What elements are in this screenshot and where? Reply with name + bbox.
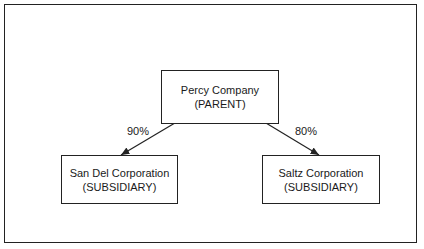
subsidiary-role: (SUBSIDIARY) [83,180,157,194]
ownership-arrows [0,0,424,249]
subsidiary-node-san-del: San Del Corporation (SUBSIDIARY) [61,155,178,204]
ownership-label-san-del: 90% [127,125,149,137]
subsidiary-name: San Del Corporation [70,166,170,180]
ownership-label-saltz: 80% [295,125,317,137]
parent-role: (PARENT) [194,97,245,111]
subsidiary-role: (SUBSIDIARY) [284,180,358,194]
subsidiary-node-saltz: Saltz Corporation (SUBSIDIARY) [262,155,380,204]
parent-name: Percy Company [181,83,259,97]
subsidiary-name: Saltz Corporation [279,166,364,180]
parent-node: Percy Company (PARENT) [161,70,279,124]
